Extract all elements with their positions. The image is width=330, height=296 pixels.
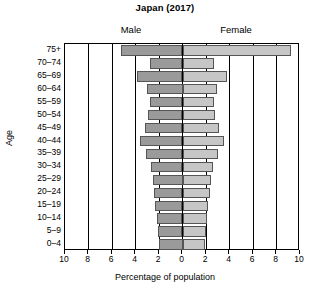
bar-row [65,239,298,249]
bar-female [183,45,291,55]
bar-male [148,110,182,120]
y-axis-tick-label: 75+ [3,45,61,54]
y-axis-tick-label: 15–19 [3,200,61,209]
y-axis-tick-label: 10–14 [3,213,61,222]
population-pyramid-chart: Japan (2017) Male Female 0–45–910–1415–1… [0,0,330,296]
bar-female [183,123,219,133]
x-axis-tick-label: 6 [101,255,121,264]
bar-male [157,213,183,223]
bar-female [183,110,216,120]
bar-female [183,201,209,211]
bar-male [150,58,183,68]
y-axis-tick-label: 0–4 [3,239,61,248]
bar-row [65,45,298,55]
bar-male [159,239,183,249]
bar-female [183,136,224,146]
x-axis-tick-labels: 1086420246810 [64,255,299,267]
legend-label-female: Female [208,24,264,35]
legend-label-male: Male [108,24,154,35]
bar-row [65,149,298,159]
bar-female [183,213,208,223]
x-axis-title: Percentage of population [0,272,330,282]
bar-female [183,188,210,198]
bar-male [158,226,183,236]
x-axis-tick-label: 2 [195,255,215,264]
x-axis-tick-label: 4 [219,255,239,264]
bar-male [147,84,182,94]
bar-row [65,71,298,81]
y-axis-tick-label: 70–74 [3,58,61,67]
bar-female [183,84,217,94]
bar-row [65,201,298,211]
bar-female [183,71,228,81]
x-axis-tick-label: 10 [289,255,309,264]
bar-female [183,226,207,236]
y-axis-tick-label: 60–64 [3,84,61,93]
bar-male [121,45,182,55]
bar-female [183,175,211,185]
bar-row [65,58,298,68]
y-axis-title: Age [4,113,14,163]
x-axis-tick-label: 8 [78,255,98,264]
bar-male [145,123,183,133]
bar-male [151,162,183,172]
bar-female [183,239,205,249]
bar-male [154,188,182,198]
bar-male [155,201,182,211]
bar-male [137,71,183,81]
bar-male [150,97,183,107]
bar-female [183,58,215,68]
y-axis-tick-label: 5–9 [3,226,61,235]
plot-area [64,43,299,250]
bar-female [183,97,215,107]
x-axis-tick-label: 4 [125,255,145,264]
bar-row [65,175,298,185]
y-axis-tick-label: 20–24 [3,187,61,196]
x-axis-tick-label: 0 [172,255,192,264]
bar-male [153,175,182,185]
y-axis-tick-label: 55–59 [3,97,61,106]
x-axis-tick-label: 8 [266,255,286,264]
bar-male [146,149,182,159]
bar-row [65,226,298,236]
bars-layer [65,44,298,249]
x-axis-tick-label: 6 [242,255,262,264]
chart-title: Japan (2017) [0,2,330,13]
y-axis-tick-label: 25–29 [3,174,61,183]
x-axis-tick-label: 10 [54,255,74,264]
bar-row [65,136,298,146]
bar-row [65,110,298,120]
bar-row [65,97,298,107]
bar-row [65,84,298,94]
bar-female [183,162,214,172]
bar-row [65,162,298,172]
bar-row [65,188,298,198]
bar-male [140,136,182,146]
bar-female [183,149,218,159]
bar-row [65,213,298,223]
x-axis-tick-label: 2 [148,255,168,264]
y-axis-tick-label: 65–69 [3,71,61,80]
bar-row [65,123,298,133]
